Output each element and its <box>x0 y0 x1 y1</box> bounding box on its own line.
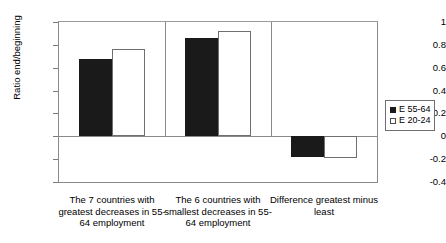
y-tick-label: 1 <box>402 17 446 27</box>
y-tick-label: -0.2 <box>402 154 446 164</box>
bar-e-20-24 <box>218 31 251 136</box>
bar-e-55-64 <box>185 38 218 136</box>
plot-area <box>59 22 377 182</box>
y-tick-label: 0.4 <box>402 86 446 96</box>
legend-swatch-e-55-64 <box>390 107 396 113</box>
y-axis-title: Ratio end/beginning <box>11 0 22 118</box>
y-tick-label: 0 <box>402 132 446 142</box>
x-category-label: The 7 countries with greatest decreases … <box>56 194 168 229</box>
legend-item: E 55-64 <box>390 104 430 115</box>
legend-item-label: E 55-64 <box>399 104 431 115</box>
legend-item-label: E 20-24 <box>399 115 431 126</box>
x-category-label: Difference greatest minus least <box>268 194 380 217</box>
category-separator <box>271 22 272 136</box>
bar-e-55-64 <box>291 136 324 157</box>
bar-e-20-24 <box>112 49 145 136</box>
y-tick-label: 0.6 <box>402 63 446 73</box>
legend: E 55-64E 20-24 <box>385 100 435 131</box>
x-category-label: The 6 countries with smallest decreases … <box>162 194 274 229</box>
legend-swatch-e-20-24 <box>390 118 396 124</box>
legend-item: E 20-24 <box>390 115 430 126</box>
y-tick-label: -0.4 <box>402 177 446 187</box>
y-tick-label: 0.8 <box>402 40 446 50</box>
bar-e-55-64 <box>79 59 112 137</box>
category-separator <box>165 22 166 136</box>
bar-e-20-24 <box>324 136 357 158</box>
bar-chart: Ratio end/beginning 10.80.60.40.20-0.2-0… <box>0 0 446 243</box>
